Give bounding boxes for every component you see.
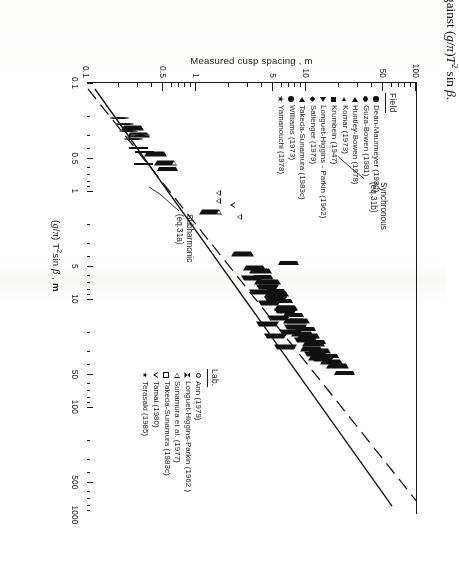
- filled-triangle-left-icon: [299, 97, 305, 102]
- x-tick: [87, 174, 90, 175]
- x-tick: [87, 224, 90, 225]
- legend-lab-entry-label: Takeda-Sunamura (1983c): [161, 381, 172, 476]
- filled-triangle-right-icon: [256, 321, 279, 326]
- filled-triangle-left-icon: [308, 355, 331, 360]
- data-point: [134, 163, 152, 165]
- open-circle-icon: [124, 138, 143, 140]
- x-tick: [87, 83, 94, 84]
- legend-field-entry-symbol: [352, 93, 358, 105]
- legend-lab-entry-symbol: [174, 369, 180, 381]
- legend-field-entry-label: Guza-Bowen (1981): [360, 105, 371, 176]
- subharmonic-annotation: Subharmonic (eq.31a): [174, 214, 195, 262]
- y-tick-label: 5: [268, 73, 278, 78]
- data-point: [256, 280, 274, 285]
- data-point: [266, 333, 284, 338]
- x-tick: [87, 135, 90, 136]
- x-tick-label: 0.1: [70, 77, 80, 89]
- legend-field-rows: Dean-Maurmeyer (1980)Guza-Bowen (1981)Hu…: [275, 93, 381, 218]
- legend-field-entry-symbol: [320, 93, 326, 105]
- legend-field: Field Dean-Maurmeyer (1980)Guza-Bowen (1…: [275, 93, 398, 218]
- x-tick: [87, 116, 90, 117]
- legend-lab-entry-row: Ann (1979): [193, 369, 204, 492]
- legend-field-entry-label: Takeda-Sunamura (1983c): [297, 105, 308, 200]
- x-tick: [87, 282, 90, 283]
- legend-field-entry-symbol: [278, 93, 284, 105]
- x-tick: [87, 351, 90, 352]
- y-tick-label: 10: [301, 68, 311, 78]
- data-point: [119, 130, 137, 132]
- filled-hex-icon: [363, 96, 368, 101]
- data-point: [201, 209, 219, 214]
- data-point: [245, 266, 263, 271]
- legend-field-entry-label: Komar (1973): [339, 105, 350, 154]
- data-point: [302, 346, 320, 351]
- y-tick-label: 0.1: [81, 66, 91, 78]
- y-tick: [151, 83, 152, 87]
- filled-triangle-right-icon: [294, 338, 317, 343]
- y-tick: [371, 83, 372, 87]
- filled-triangle-left-icon: [243, 266, 266, 271]
- legend-field-entry-label: Huntley-Bowen (1978): [349, 105, 360, 185]
- x-tick-label: 500: [70, 475, 80, 489]
- legend-field-entry-label: Williams (1973): [286, 105, 297, 160]
- filled-triangle-left-icon: [326, 364, 349, 369]
- subharmonic-leader: [149, 187, 179, 211]
- legend-field-entry-symbol: [331, 93, 336, 105]
- legend-lab-entry-row: Takeda-Sunamura (1983c): [161, 369, 172, 492]
- x-tick: [87, 383, 90, 384]
- plot-area: Synchronous (eq.31b) Subharmonic (eq.31a…: [87, 83, 416, 514]
- y-tick: [415, 83, 416, 91]
- legend-lab-entry-symbol: [184, 369, 190, 381]
- open-circle-icon: [131, 134, 150, 136]
- data-point: [110, 117, 128, 119]
- x-tick: [87, 256, 90, 257]
- y-tick: [305, 83, 306, 91]
- legend-lab-entry-symbol: [142, 369, 148, 381]
- filled-circle-icon: [373, 96, 378, 101]
- legend-field-entry-row: Dean-Maurmeyer (1980): [371, 93, 382, 218]
- y-tick: [404, 83, 405, 87]
- open-square-icon: [134, 163, 153, 165]
- figure-caption: Figure 6.22: Measured beach cusp spacing…: [442, 0, 459, 100]
- x-tick-label: 1000: [70, 505, 80, 524]
- legend-lab-entry-symbol: [153, 369, 158, 381]
- legend-lab-entry-row: Tamai (1980): [150, 369, 161, 492]
- legend-field-entry-row: Takeda-Sunamura (1983c): [297, 93, 308, 218]
- legend-field-entry-symbol: [363, 93, 368, 105]
- filled-triangle-left-icon: [254, 280, 277, 285]
- filled-triangle-right-icon: [264, 333, 287, 338]
- y-tick: [195, 83, 196, 91]
- y-tick: [294, 83, 295, 87]
- legend-field-entry-label: Dean-Maurmeyer (1980): [371, 105, 382, 192]
- x-tick-label: 50: [70, 370, 80, 380]
- y-tick: [228, 83, 229, 87]
- x-tick-label: 100: [70, 400, 80, 414]
- filled-triangle-left-icon: [157, 167, 178, 171]
- y-tick: [391, 83, 392, 87]
- x-tick: [87, 374, 94, 375]
- legend-lab-entry-row: Longuet-Higgins-Parkin (1962 ): [182, 369, 193, 492]
- y-axis-title-text: Measured cusp spacing , m: [190, 55, 312, 66]
- legend-lab-entry-label: Tamai (1980): [150, 381, 161, 428]
- y-tick-label: 1: [191, 73, 201, 78]
- y-tick: [398, 83, 399, 87]
- filled-circle-icon: [288, 96, 294, 102]
- open-square-icon: [163, 372, 169, 378]
- y-tick: [137, 83, 138, 87]
- legend-lab-entry-label: Sunamura et al. (1977): [171, 381, 182, 463]
- y-axis-title: Measured cusp spacing , m: [152, 55, 352, 66]
- open-triangle-down-icon: [199, 190, 221, 196]
- y-tick: [162, 83, 163, 91]
- legend-lab-entry-label: Longuet-Higgins-Parkin (1962 ): [182, 381, 193, 492]
- legend-field-entry-row: Yamanouchi (1978): [275, 93, 286, 218]
- y-tick: [178, 83, 179, 87]
- x-tick-label: 5: [70, 264, 80, 269]
- legend-field-entry-row: Longuet-Higgins - Parkin (1962): [318, 93, 329, 218]
- legend-field-entry-label: Sallenger (1979): [307, 105, 318, 164]
- x-tick: [87, 472, 90, 473]
- filled-square-icon: [331, 97, 336, 102]
- legend-field-entry-row: Huntley-Bowen (1978): [350, 93, 361, 218]
- filled-triangle-left-icon: [283, 319, 306, 324]
- filled-triangle-left-icon: [264, 293, 287, 298]
